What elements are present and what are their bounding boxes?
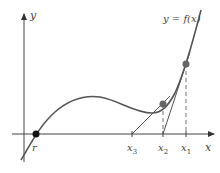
- x-axis-label: x: [205, 141, 212, 154]
- root-point: [33, 131, 40, 138]
- point-x2: [160, 101, 167, 108]
- x1-label: x1: [181, 142, 191, 156]
- newton-method-diagram: y x y = f(x) r x3 x2 x1: [0, 0, 220, 173]
- y-axis-label: y: [29, 9, 37, 22]
- function-curve: [21, 10, 201, 160]
- root-label: r: [32, 142, 38, 153]
- x2-label: x2: [158, 142, 168, 156]
- x3-label: x3: [127, 142, 137, 156]
- point-x1: [183, 61, 190, 68]
- curve-label: y = f(x): [162, 13, 201, 24]
